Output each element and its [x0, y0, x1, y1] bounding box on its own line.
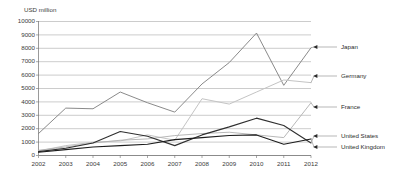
y-tick-label: 5000 — [21, 84, 35, 91]
y-tick-label: 1000 — [21, 138, 35, 145]
x-tick-label: 2009 — [222, 160, 236, 167]
x-tick-label: 2003 — [59, 160, 73, 167]
legend-label-germany: Germany — [341, 72, 367, 79]
y-tick-label: 6000 — [21, 71, 35, 78]
x-tick-label: 2008 — [195, 160, 209, 167]
y-tick-label: 8000 — [21, 44, 35, 51]
legend-arrow-marker-united-kingdom — [313, 145, 317, 149]
y-tick-label: 7000 — [21, 57, 35, 64]
legend-label-united-kingdom: United Kingdom — [341, 143, 385, 150]
legend-label-france: France — [341, 103, 361, 110]
x-tick-label: 2004 — [86, 160, 100, 167]
legend-label-japan: Japan — [341, 43, 358, 50]
x-tick-label: 2005 — [113, 160, 127, 167]
legend-label-united-states: United States — [341, 132, 378, 139]
x-tick-label: 2011 — [277, 160, 291, 167]
series-line-united-states — [39, 118, 312, 151]
x-tick-label: 2007 — [168, 160, 182, 167]
y-tick-label: 9000 — [21, 31, 35, 38]
y-tick-label: 3000 — [21, 111, 35, 118]
x-axis-tick-labels: 2002200320042005200620072008200920102011… — [32, 160, 319, 167]
x-tick-label: 2010 — [250, 160, 264, 167]
y-axis-tick-labels: 0100020003000400050006000700080009000100… — [18, 17, 39, 158]
x-axis-tickmarks — [39, 156, 312, 159]
y-tick-label: 2000 — [21, 124, 35, 131]
x-tick-label: 2012 — [304, 160, 318, 167]
legend-arrow-marker-france — [313, 105, 317, 109]
series-line-france — [39, 103, 312, 151]
legend-arrow-marker-germany — [313, 74, 317, 78]
y-tick-label: 10000 — [18, 17, 36, 24]
x-tick-label: 2002 — [32, 160, 46, 167]
legend: JapanGermanyFranceUnited StatesUnited Ki… — [311, 43, 385, 150]
y-tick-label: 0 — [32, 151, 36, 158]
y-tick-label: 4000 — [21, 98, 35, 105]
chart-canvas: USD million 0100020003000400050006000700… — [0, 0, 398, 179]
series-lines — [39, 33, 312, 152]
y-axis-title: USD million — [24, 6, 57, 13]
legend-arrow-marker-united-states — [313, 134, 317, 138]
legend-arrow-marker-japan — [313, 45, 317, 49]
legend-leader-elbow-france — [311, 103, 314, 107]
legend-leader-elbow-germany — [311, 76, 314, 83]
x-tick-label: 2006 — [141, 160, 155, 167]
line-chart: USD million 0100020003000400050006000700… — [0, 0, 398, 179]
